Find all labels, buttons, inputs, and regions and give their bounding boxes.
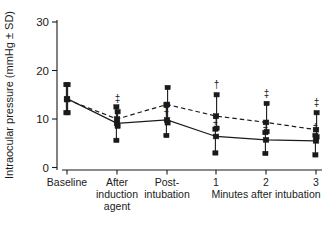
significance-annotation: ‡ (264, 88, 270, 99)
error-cap-upper (165, 85, 170, 89)
plot-area: †‡‡‡‡‡‡‡ (64, 79, 320, 157)
error-cap-lower (65, 110, 70, 114)
x-tick-label-min2: 2 (263, 176, 269, 188)
error-cap-lower (114, 138, 119, 142)
chart-canvas: 30 20 10 0 Intraocular pressure (mmHg ± … (0, 0, 331, 226)
data-point-marker (114, 117, 120, 122)
error-cap-upper (114, 105, 119, 109)
figure-container: 30 20 10 0 Intraocular pressure (mmHg ± … (0, 0, 331, 226)
error-cap-upper (264, 101, 269, 105)
significance-annotation: † (214, 79, 220, 90)
data-point-marker (213, 134, 219, 139)
y-tick-label-0: 0 (43, 162, 49, 174)
significance-annotation: ‡ (313, 122, 319, 133)
x-tick-label-min1: 1 (213, 176, 219, 188)
data-point-marker (263, 137, 269, 142)
y-tick-label-10: 10 (36, 113, 49, 125)
x-tick-label-min3: 3 (313, 176, 319, 188)
x-tick-label-post-2: intubation (144, 188, 190, 200)
x-tick-label-post-1: Post- (155, 176, 180, 188)
series-line (67, 100, 316, 130)
error-cap-lower (213, 151, 218, 155)
error-cap-upper (65, 82, 70, 86)
error-cap-lower (115, 124, 120, 128)
x-axis-title: Minutes after intubation (211, 188, 320, 200)
significance-annotation: ‡ (213, 115, 219, 126)
x-tick-label-baseline: Baseline (47, 176, 87, 188)
data-point-marker (64, 97, 70, 102)
x-tick-label-after-1: After (106, 176, 129, 188)
error-cap-upper (115, 110, 120, 114)
error-cap-upper (314, 110, 319, 114)
x-axis: Baseline After induction agent Post- int… (47, 170, 322, 212)
error-cap-lower (313, 153, 318, 157)
significance-annotation: ‡ (263, 120, 269, 131)
y-tick-label-30: 30 (36, 16, 49, 28)
error-cap-lower (263, 151, 268, 155)
series-line (67, 99, 316, 141)
error-cap-lower (314, 135, 319, 139)
y-axis: 30 20 10 0 Intraocular pressure (mmHg ± … (3, 11, 57, 179)
y-tick-label-20: 20 (36, 65, 49, 77)
significance-annotation: ‡ (115, 93, 121, 104)
y-axis-title: Intraocular pressure (mmHg ± SD) (3, 11, 15, 179)
significance-annotation: ‡ (164, 104, 170, 115)
error-cap-upper (214, 93, 219, 97)
series-dashed (64, 82, 319, 139)
error-cap-lower (165, 121, 170, 125)
x-tick-label-after-3: agent (104, 200, 130, 212)
significance-annotation: ‡ (314, 97, 320, 108)
x-tick-label-after-2: induction (96, 188, 138, 200)
error-cap-lower (164, 133, 169, 137)
error-cap-lower (214, 126, 219, 130)
series-solid (64, 82, 319, 157)
